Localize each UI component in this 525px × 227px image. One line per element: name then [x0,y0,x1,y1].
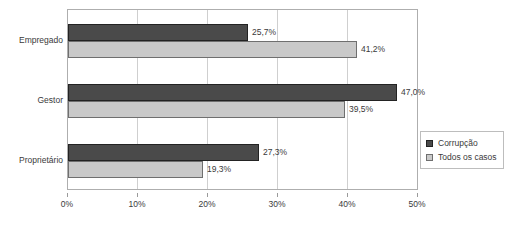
bar-value-corrupcao-empregado: 25,7% [252,24,276,41]
bar-value-todos-os-casos-proprietario: 19,3% [207,161,231,178]
bar-corrupcao-gestor [68,84,397,101]
y-axis-label-empregado: Empregado [1,35,63,45]
x-tick-0 [67,193,68,197]
bar-corrupcao-proprietario [68,144,259,161]
x-tick-label-50: 50% [408,199,425,209]
x-tick-10 [137,193,138,197]
bar-value-corrupcao-proprietario: 27,3% [263,144,287,161]
x-axis: 0% 10% 20% 30% 40% 50% [67,193,418,213]
legend-item-todos-os-casos: Todos os casos [426,150,497,164]
legend-label-todos-os-casos: Todos os casos [438,152,497,162]
bar-value-corrupcao-gestor: 47,0% [401,84,425,101]
x-tick-30 [277,193,278,197]
legend: Corrupção Todos os casos [420,131,504,169]
x-tick-label-40: 40% [338,199,355,209]
legend-swatch-icon-todos-os-casos [426,154,433,161]
bar-todos-os-casos-gestor [68,101,345,118]
bar-group-gestor: 47,0% 39,5% [68,84,417,118]
bar-group-empregado: 25,7% 41,2% [68,24,417,58]
y-axis: Empregado Gestor Proprietário [0,9,63,190]
bar-todos-os-casos-proprietario [68,161,203,178]
bar-value-todos-os-casos-empregado: 41,2% [361,41,385,58]
bar-corrupcao-empregado [68,24,248,41]
x-tick-label-20: 20% [198,199,215,209]
bar-todos-os-casos-empregado [68,41,357,58]
x-tick-40 [347,193,348,197]
y-axis-label-gestor: Gestor [1,95,63,105]
bar-value-todos-os-casos-gestor: 39,5% [349,101,373,118]
plot-area: 25,7% 41,2% 47,0% 39,5% 27,3% 19,3% [67,9,418,190]
x-tick-label-10: 10% [128,199,145,209]
legend-label-corrupcao: Corrupção [438,138,478,148]
x-tick-50 [417,193,418,197]
legend-swatch-icon-corrupcao [426,140,433,147]
bar-chart: 25,7% 41,2% 47,0% 39,5% 27,3% 19,3% Empr… [0,0,525,227]
x-tick-label-0: 0% [61,199,73,209]
x-tick-label-30: 30% [268,199,285,209]
x-tick-20 [207,193,208,197]
y-axis-label-proprietario: Proprietário [1,155,63,165]
legend-item-corrupcao: Corrupção [426,136,497,150]
bar-group-proprietario: 27,3% 19,3% [68,144,417,178]
